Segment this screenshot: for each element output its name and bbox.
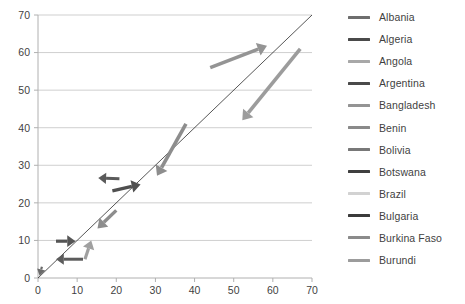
- legend-item-albania[interactable]: Albania: [340, 6, 465, 28]
- arrow-shaft: [210, 49, 258, 67]
- arrow-burundi: [242, 49, 300, 120]
- legend-swatch-icon: [348, 236, 370, 239]
- legend-item-label: Albania: [379, 11, 415, 23]
- legend-swatch-icon: [348, 38, 370, 41]
- legend-swatch-icon: [348, 60, 370, 63]
- x-tick-label: 60: [267, 284, 279, 296]
- legend-swatch-icon: [348, 126, 370, 129]
- legend-item-label: Bulgaria: [379, 210, 418, 222]
- arrow-bangladesh: [210, 43, 267, 68]
- y-tick-label: 0: [24, 272, 30, 284]
- legend-item-label: Brazil: [379, 188, 406, 200]
- y-tick-label: 10: [18, 234, 30, 246]
- x-tick-label: 30: [150, 284, 162, 296]
- legend-item-botswana[interactable]: Botswana: [340, 161, 465, 183]
- plot-svg: 010203040506070010203040506070: [0, 0, 340, 304]
- legend-swatch-icon: [348, 16, 370, 19]
- legend-item-label: Angola: [379, 55, 412, 67]
- legend-swatch-icon: [348, 82, 370, 85]
- legend-item-label: Bolivia: [379, 144, 411, 156]
- arrow-argentina: [56, 254, 83, 265]
- legend-item-benin[interactable]: Benin: [340, 116, 465, 138]
- arrow-head: [67, 235, 75, 247]
- legend-item-bulgaria[interactable]: Bulgaria: [340, 205, 465, 227]
- legend-item-argentina[interactable]: Argentina: [340, 72, 465, 94]
- legend-item-algeria[interactable]: Algeria: [340, 28, 465, 50]
- x-tick-label: 70: [306, 284, 318, 296]
- arrow-benin: [97, 210, 116, 228]
- legend-item-label: Botswana: [379, 166, 426, 178]
- arrow-shaft: [104, 210, 116, 222]
- y-tick-label: 60: [18, 46, 30, 58]
- legend-item-bolivia[interactable]: Bolivia: [340, 139, 465, 161]
- y-tick-label: 70: [18, 9, 30, 21]
- arrow-head: [56, 254, 64, 265]
- legend-item-burundi[interactable]: Burundi: [340, 249, 465, 271]
- arrow-shaft: [85, 248, 89, 259]
- legend-item-label: Algeria: [379, 33, 412, 45]
- arrow-burkina-faso: [98, 173, 119, 184]
- legend-swatch-icon: [348, 170, 370, 173]
- y-tick-label: 40: [18, 122, 30, 134]
- arrow-angola: [83, 240, 94, 259]
- legend: AlbaniaAlgeriaAngolaArgentinaBangladeshB…: [340, 0, 465, 304]
- legend-swatch-icon: [348, 192, 370, 195]
- plot-area: 010203040506070010203040506070: [0, 0, 340, 304]
- arrow-bolivia: [156, 124, 186, 176]
- legend-item-label: Burundi: [379, 254, 416, 266]
- arrow-head: [131, 180, 141, 192]
- x-tick-label: 10: [71, 284, 83, 296]
- x-tick-label: 40: [189, 284, 201, 296]
- legend-swatch-icon: [348, 214, 370, 217]
- x-tick-label: 50: [228, 284, 240, 296]
- legend-item-burkina-faso[interactable]: Burkina Faso: [340, 227, 465, 249]
- y-tick-label: 30: [18, 159, 30, 171]
- legend-item-bangladesh[interactable]: Bangladesh: [340, 94, 465, 116]
- arrow-shaft: [248, 49, 300, 113]
- arrow-bulgaria: [56, 235, 76, 247]
- arrow-shaft: [162, 124, 186, 168]
- arrow-shaft: [41, 267, 42, 270]
- y-tick-label: 20: [18, 197, 30, 209]
- legend-item-label: Argentina: [379, 77, 425, 89]
- legend-item-brazil[interactable]: Brazil: [340, 183, 465, 205]
- x-tick-label: 0: [35, 284, 41, 296]
- arrow-botswana: [112, 180, 140, 192]
- legend-item-label: Benin: [379, 122, 406, 134]
- legend-swatch-icon: [348, 148, 370, 151]
- legend-item-label: Burkina Faso: [379, 232, 442, 244]
- legend-swatch-icon: [348, 104, 370, 107]
- legend-item-label: Bangladesh: [379, 99, 435, 111]
- legend-swatch-icon: [348, 259, 370, 262]
- x-tick-label: 20: [110, 284, 122, 296]
- arrow-head: [98, 173, 106, 184]
- gridlines: [38, 15, 312, 240]
- y-tick-label: 50: [18, 84, 30, 96]
- legend-item-angola[interactable]: Angola: [340, 50, 465, 72]
- chart-container: 010203040506070010203040506070 AlbaniaAl…: [0, 0, 465, 304]
